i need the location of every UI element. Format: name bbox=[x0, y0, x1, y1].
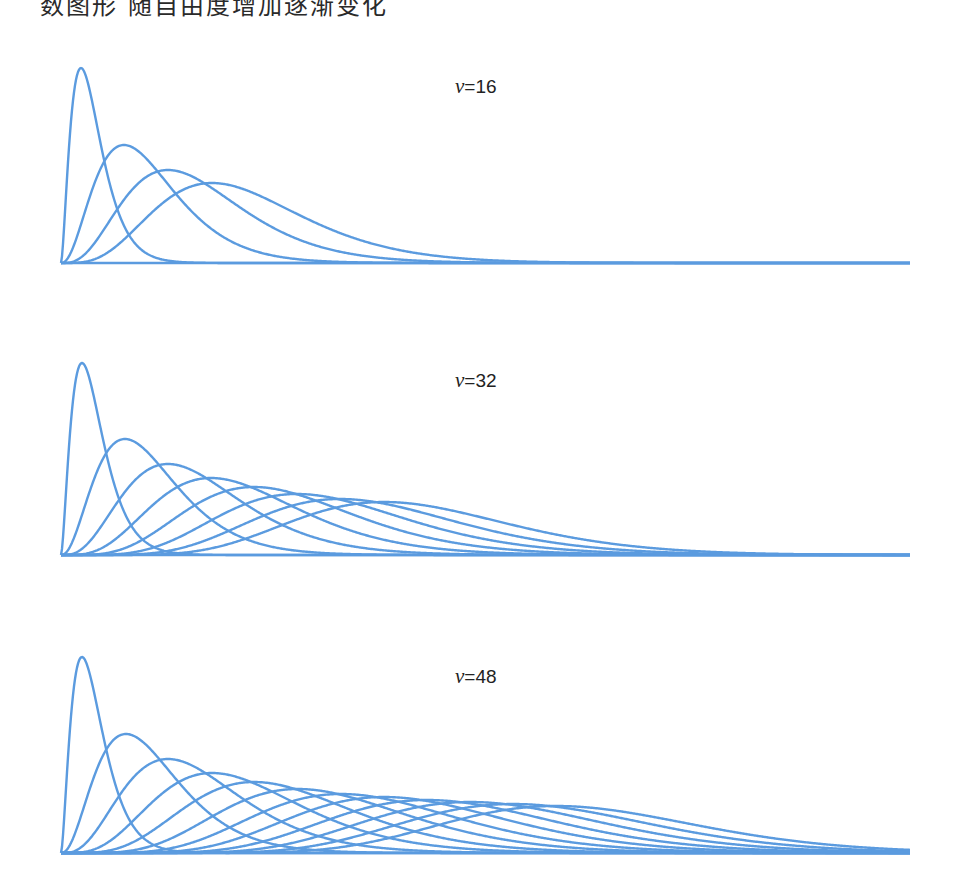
density-curve bbox=[61, 145, 910, 263]
panel-label-v32: ν=32 bbox=[455, 368, 497, 393]
distribution-plots bbox=[0, 0, 961, 881]
label-value: =32 bbox=[464, 370, 496, 391]
nu-symbol: ν bbox=[455, 664, 464, 688]
nu-symbol: ν bbox=[455, 74, 464, 98]
panel-label-v16: ν=16 bbox=[455, 74, 497, 99]
density-curve bbox=[61, 183, 910, 263]
nu-symbol: ν bbox=[455, 368, 464, 392]
density-curve bbox=[61, 439, 910, 555]
label-value: =16 bbox=[464, 76, 496, 97]
label-value: =48 bbox=[464, 666, 496, 687]
density-curve bbox=[61, 170, 910, 263]
density-curve bbox=[61, 478, 910, 555]
panel-label-v48: ν=48 bbox=[455, 664, 497, 689]
